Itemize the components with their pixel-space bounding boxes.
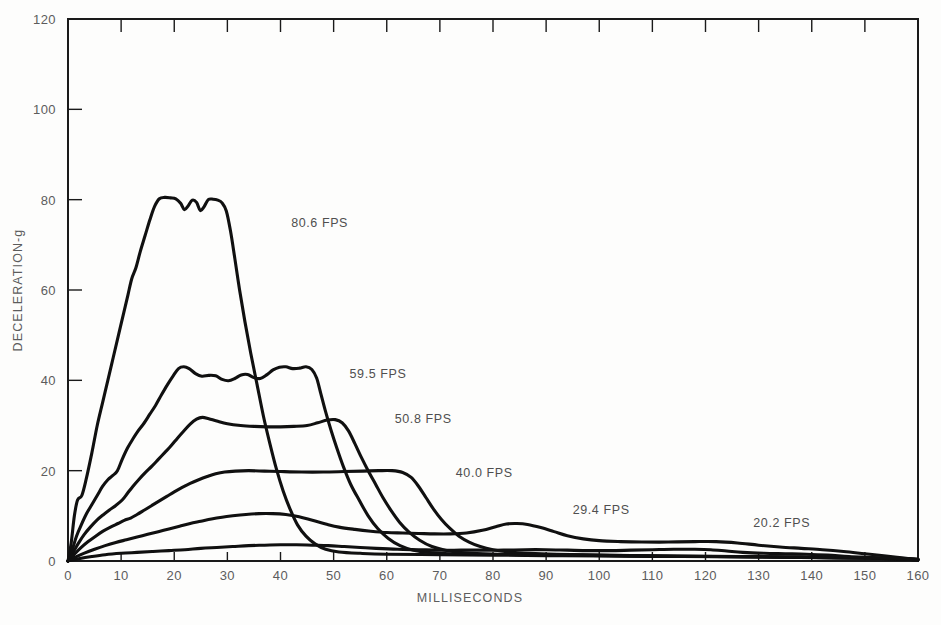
- y-axis-title: DECELERATION-g: [11, 229, 25, 352]
- x-axis-title: MILLISECONDS: [417, 591, 523, 605]
- series-label-4: 29.4 FPS: [573, 503, 630, 517]
- chart-svg: 0102030405060708090100110120130140150160…: [0, 0, 941, 625]
- series-label-2: 50.8 FPS: [395, 412, 452, 426]
- x-axis-tick-labels: 0102030405060708090100110120130140150160: [64, 568, 929, 583]
- x-tick-label-130: 130: [747, 568, 770, 583]
- y-tick-label-40: 40: [41, 373, 56, 388]
- y-axis-tick-labels: 020406080100120: [33, 12, 56, 569]
- x-tick-label-60: 60: [379, 568, 394, 583]
- x-tick-label-30: 30: [220, 568, 235, 583]
- series-label-1: 59.5 FPS: [350, 367, 407, 381]
- data-curves: [68, 197, 918, 561]
- x-tick-label-90: 90: [538, 568, 553, 583]
- x-tick-label-150: 150: [853, 568, 876, 583]
- x-tick-label-110: 110: [641, 568, 663, 583]
- series-label-0: 80.6 FPS: [291, 216, 348, 230]
- curve-50-8-fps: [68, 417, 918, 561]
- y-tick-label-80: 80: [41, 193, 56, 208]
- x-tick-label-40: 40: [273, 568, 288, 583]
- y-tick-label-20: 20: [41, 464, 56, 479]
- x-tick-label-50: 50: [326, 568, 341, 583]
- series-annotations: 80.6 FPS59.5 FPS50.8 FPS40.0 FPS29.4 FPS…: [291, 216, 810, 530]
- x-tick-label-100: 100: [588, 568, 611, 583]
- curve-59-5-fps: [68, 367, 918, 561]
- x-tick-label-160: 160: [907, 568, 930, 583]
- x-tick-label-0: 0: [64, 568, 72, 583]
- series-label-5: 20.2 FPS: [753, 516, 810, 530]
- y-axis-ticks: [68, 109, 82, 470]
- y-tick-label-100: 100: [33, 102, 56, 117]
- y-tick-label-60: 60: [41, 283, 56, 298]
- x-tick-label-70: 70: [432, 568, 447, 583]
- y-tick-label-120: 120: [33, 12, 56, 27]
- x-tick-label-80: 80: [485, 568, 500, 583]
- x-tick-label-140: 140: [800, 568, 823, 583]
- x-tick-label-10: 10: [113, 568, 128, 583]
- y-tick-label-0: 0: [48, 554, 56, 569]
- series-label-3: 40.0 FPS: [456, 466, 513, 480]
- curve-80-6-fps: [68, 197, 918, 561]
- x-tick-label-120: 120: [694, 568, 717, 583]
- deceleration-chart: 0102030405060708090100110120130140150160…: [0, 0, 941, 625]
- x-tick-label-20: 20: [167, 568, 182, 583]
